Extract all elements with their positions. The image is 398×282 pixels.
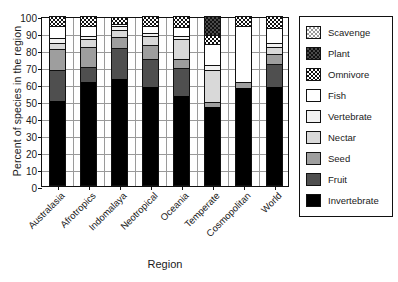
bar-segment-nectar[interactable] — [80, 39, 97, 48]
bar-segment-fish[interactable] — [235, 26, 252, 82]
legend-swatch-scavenge — [306, 26, 321, 39]
legend-swatch-fish — [306, 89, 321, 102]
bar-segment-invertebrate[interactable] — [235, 88, 252, 186]
stacked-bar-oceania[interactable] — [173, 16, 190, 186]
stacked-bar-temperate[interactable] — [204, 16, 221, 186]
bar-segment-seed[interactable] — [80, 47, 97, 67]
legend-swatch-nectar — [306, 131, 321, 144]
bar-segment-omnivore[interactable] — [111, 17, 128, 24]
y-axis-tick-mark — [38, 18, 42, 19]
bar-segment-plant[interactable] — [204, 16, 221, 35]
bar-series-layer — [42, 18, 288, 186]
bar-segment-seed[interactable] — [111, 37, 128, 48]
bar-segment-nectar[interactable] — [204, 70, 221, 101]
bar-segment-omnivore[interactable] — [142, 16, 159, 26]
y-axis-title: Percent of species in the region — [11, 6, 23, 196]
legend-item-fruit[interactable]: Fruit — [300, 169, 392, 190]
bar-segment-fish[interactable] — [80, 26, 97, 35]
bar-segment-fruit[interactable] — [142, 59, 159, 86]
legend-item-vertebrate[interactable]: Vertebrate — [300, 106, 392, 127]
y-axis-tick-mark — [38, 154, 42, 155]
legend-label: Invertebrate — [328, 195, 379, 206]
legend-item-omnivore[interactable]: Omnivore — [300, 64, 392, 85]
legend-label: Fish — [328, 90, 346, 101]
bar-segment-seed[interactable] — [266, 54, 283, 64]
plot-area: 1009080706050403020100 — [41, 17, 289, 187]
bar-segment-fish[interactable] — [142, 26, 159, 33]
y-axis-tick-mark — [38, 188, 42, 189]
bar-segment-omnivore[interactable] — [80, 16, 97, 26]
y-axis-tick-mark — [38, 35, 42, 36]
x-axis-tick-labels: AustralasiaAfrotropicsIndomalayaNeotropi… — [41, 190, 289, 252]
bar-segment-invertebrate[interactable] — [173, 96, 190, 186]
legend-label: Vertebrate — [328, 111, 372, 122]
bar-segment-fruit[interactable] — [173, 68, 190, 96]
stacked-bar-indomalaya[interactable] — [111, 17, 128, 186]
bar-column — [142, 18, 159, 186]
bar-segment-fish[interactable] — [49, 26, 66, 38]
legend-swatch-vertebrate — [306, 110, 321, 123]
legend-swatch-invertebrate — [306, 194, 321, 207]
legend-item-plant[interactable]: Plant — [300, 43, 392, 64]
legend-item-scavenge[interactable]: Scavenge — [300, 22, 392, 43]
bar-segment-nectar[interactable] — [111, 30, 128, 38]
bar-segment-invertebrate[interactable] — [204, 107, 221, 186]
bar-segment-seed[interactable] — [173, 59, 190, 68]
bar-segment-fish[interactable] — [173, 27, 190, 36]
bar-column — [49, 18, 66, 186]
bar-segment-nectar[interactable] — [266, 47, 283, 54]
legend-swatch-seed — [306, 152, 321, 165]
bar-segment-fruit[interactable] — [80, 67, 97, 82]
chart-legend: ScavengePlantOmnivoreFishVertebrateNecta… — [299, 16, 393, 217]
legend-label: Plant — [328, 48, 350, 59]
bar-segment-fruit[interactable] — [111, 48, 128, 79]
y-axis-tick-mark — [38, 137, 42, 138]
bar-column — [173, 18, 190, 186]
bar-segment-fish[interactable] — [204, 44, 221, 65]
bar-segment-seed[interactable] — [142, 45, 159, 59]
legend-item-seed[interactable]: Seed — [300, 148, 392, 169]
y-axis-tick-mark — [38, 86, 42, 87]
bar-segment-nectar[interactable] — [173, 39, 190, 59]
bar-segment-invertebrate[interactable] — [111, 79, 128, 186]
stacked-bar-afrotropics[interactable] — [80, 16, 97, 186]
bar-segment-fruit[interactable] — [266, 64, 283, 87]
bar-segment-invertebrate[interactable] — [142, 87, 159, 186]
bar-segment-invertebrate[interactable] — [266, 87, 283, 186]
bar-segment-omnivore[interactable] — [266, 16, 283, 28]
stacked-bar-neotropical[interactable] — [142, 16, 159, 186]
bar-segment-invertebrate[interactable] — [49, 101, 66, 186]
legend-label: Fruit — [328, 174, 347, 185]
bar-column — [204, 18, 221, 186]
bar-column — [266, 18, 283, 186]
bar-column — [80, 18, 97, 186]
bar-segment-seed[interactable] — [49, 49, 66, 70]
stacked-bar-cosmopolitan[interactable] — [235, 16, 252, 186]
y-axis-tick-mark — [38, 120, 42, 121]
bar-segment-invertebrate[interactable] — [80, 82, 97, 186]
y-axis-tick-mark — [38, 171, 42, 172]
bar-segment-omnivore[interactable] — [173, 16, 190, 27]
chart-figure: Percent of species in the region 1009080… — [0, 0, 398, 282]
legend-label: Scavenge — [328, 27, 370, 38]
stacked-bar-world[interactable] — [266, 16, 283, 186]
bar-column — [235, 18, 252, 186]
legend-swatch-plant — [306, 47, 321, 60]
bar-segment-fish[interactable] — [266, 28, 283, 43]
bar-segment-fruit[interactable] — [49, 70, 66, 101]
legend-label: Nectar — [328, 132, 356, 143]
legend-item-fish[interactable]: Fish — [300, 85, 392, 106]
y-axis-tick-mark — [38, 103, 42, 104]
bar-column — [111, 18, 128, 186]
bar-segment-omnivore[interactable] — [235, 16, 252, 26]
legend-item-nectar[interactable]: Nectar — [300, 127, 392, 148]
y-axis-tick-mark — [38, 52, 42, 53]
bar-segment-nectar[interactable] — [142, 36, 159, 45]
bar-segment-omnivore[interactable] — [49, 16, 66, 26]
legend-label: Seed — [328, 153, 350, 164]
legend-swatch-fruit — [306, 173, 321, 186]
y-axis-tick-mark — [38, 69, 42, 70]
stacked-bar-australasia[interactable] — [49, 16, 66, 186]
bar-segment-omnivore[interactable] — [204, 35, 221, 44]
legend-item-invertebrate[interactable]: Invertebrate — [300, 190, 392, 211]
